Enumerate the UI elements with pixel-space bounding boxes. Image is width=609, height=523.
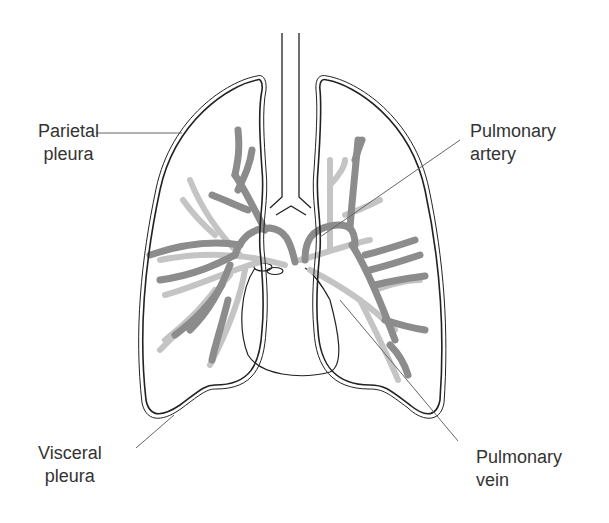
label-pulmonary-vein: Pulmonary vein xyxy=(476,446,562,492)
label-parietal-pleura: Parietal pleura xyxy=(38,120,99,166)
label-visceral-pleura: Visceral pleura xyxy=(38,442,102,488)
pulmonary-arteries xyxy=(150,130,425,375)
trachea xyxy=(270,33,311,215)
label-pulmonary-artery: Pulmonary artery xyxy=(470,120,556,166)
leader-visceral-pleura xyxy=(136,415,174,448)
leader-pulmonary-artery xyxy=(320,140,460,237)
